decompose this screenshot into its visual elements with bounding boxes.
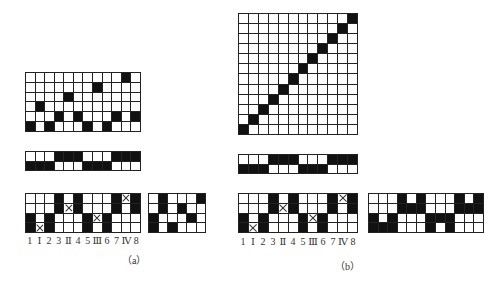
filled-cell (249, 115, 258, 124)
empty-cell (55, 214, 64, 223)
figure-b-caption: （b） (335, 258, 360, 273)
empty-cell (64, 112, 73, 121)
empty-cell (122, 112, 131, 121)
empty-cell (348, 165, 357, 174)
empty-cell (328, 105, 337, 114)
empty-cell (338, 64, 347, 73)
empty-cell (259, 64, 268, 73)
empty-cell (36, 152, 45, 161)
column-label: 7 (328, 236, 338, 247)
empty-cell (74, 93, 83, 102)
empty-cell (348, 54, 357, 63)
empty-cell (26, 112, 35, 121)
column-label: Ⅲ (92, 235, 102, 246)
filled-cell (446, 223, 455, 232)
filled-cell (239, 125, 248, 134)
empty-cell (239, 95, 248, 104)
empty-cell (131, 83, 140, 92)
empty-cell (269, 165, 278, 174)
empty-cell (168, 194, 177, 203)
empty-cell (131, 73, 140, 82)
filled-cell (249, 165, 258, 174)
empty-cell (45, 112, 54, 121)
filled-cell (269, 194, 278, 203)
empty-cell (36, 93, 45, 102)
empty-cell (55, 102, 64, 111)
empty-cell (328, 165, 337, 174)
empty-cell (55, 223, 64, 232)
empty-cell (112, 102, 121, 111)
filled-cell (26, 223, 35, 232)
empty-cell (249, 214, 258, 223)
filled-cell (348, 204, 357, 213)
filled-cell (74, 152, 83, 161)
empty-cell (318, 194, 327, 203)
filled-cell (259, 105, 268, 114)
empty-cell (122, 204, 131, 213)
empty-cell (93, 223, 102, 232)
crossed-cell (249, 223, 258, 232)
filled-cell (318, 44, 327, 53)
column-label: Ⅱ (278, 236, 288, 247)
filled-cell (379, 223, 388, 232)
filled-cell (299, 64, 308, 73)
filled-cell (112, 194, 121, 203)
empty-cell (26, 204, 35, 213)
filled-cell (259, 214, 268, 223)
empty-cell (328, 44, 337, 53)
empty-cell (328, 223, 337, 232)
empty-cell (197, 204, 206, 213)
empty-cell (279, 74, 288, 83)
empty-cell (45, 152, 54, 161)
empty-cell (36, 214, 45, 223)
empty-cell (74, 102, 83, 111)
empty-cell (308, 125, 317, 134)
empty-cell (269, 54, 278, 63)
empty-cell (64, 223, 73, 232)
filled-cell (159, 194, 168, 203)
column-label: Ⅳ (338, 236, 348, 247)
filled-cell (269, 95, 278, 104)
empty-cell (338, 54, 347, 63)
empty-cell (269, 223, 278, 232)
empty-cell (259, 125, 268, 134)
empty-cell (249, 85, 258, 94)
empty-cell (26, 152, 35, 161)
empty-cell (249, 14, 258, 23)
filled-cell (446, 214, 455, 223)
empty-cell (348, 24, 357, 33)
empty-cell (279, 223, 288, 232)
empty-cell (328, 14, 337, 23)
filled-cell (426, 214, 435, 223)
empty-cell (259, 95, 268, 104)
empty-cell (348, 214, 357, 223)
empty-cell (388, 204, 397, 213)
empty-cell (308, 204, 317, 213)
empty-cell (36, 73, 45, 82)
empty-cell (83, 102, 92, 111)
filled-cell (289, 74, 298, 83)
empty-cell (239, 74, 248, 83)
empty-cell (465, 194, 474, 203)
empty-cell (269, 125, 278, 134)
filled-cell (26, 162, 35, 171)
empty-cell (436, 223, 445, 232)
empty-cell (348, 85, 357, 94)
filled-cell (239, 223, 248, 232)
filled-cell (122, 73, 131, 82)
empty-cell (338, 14, 347, 23)
empty-cell (74, 83, 83, 92)
filled-cell (259, 165, 268, 174)
figure-b-middle-grid (238, 154, 358, 174)
filled-cell (299, 223, 308, 232)
empty-cell (83, 93, 92, 102)
empty-cell (74, 122, 83, 131)
empty-cell (103, 83, 112, 92)
empty-cell (55, 83, 64, 92)
empty-cell (299, 44, 308, 53)
empty-cell (83, 194, 92, 203)
empty-cell (417, 214, 426, 223)
empty-cell (338, 214, 347, 223)
figure-a-bottom-grid (25, 193, 141, 233)
column-label: 3 (268, 236, 278, 247)
